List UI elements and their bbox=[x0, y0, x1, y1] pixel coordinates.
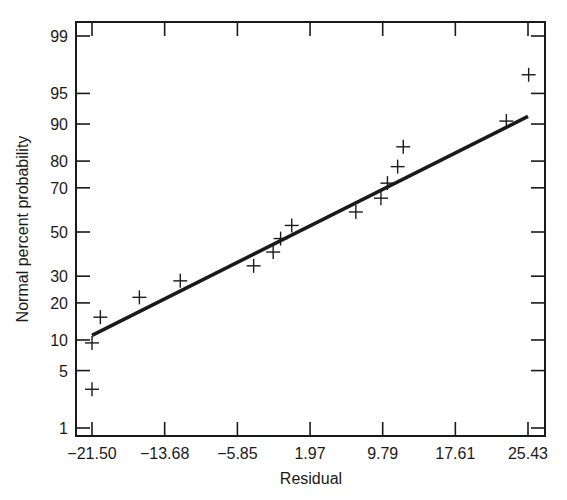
y-tick-label: 80 bbox=[50, 153, 68, 170]
plus-marker-icon bbox=[85, 336, 99, 350]
y-axis-tick-labels: 15102030507080909599 bbox=[50, 28, 68, 437]
x-tick-label: −5.85 bbox=[217, 445, 258, 462]
plus-marker-icon bbox=[173, 274, 187, 288]
y-tick-label: 10 bbox=[50, 332, 68, 349]
plus-marker-icon bbox=[93, 310, 107, 324]
plus-marker-icon bbox=[396, 140, 410, 154]
x-tick-label: 25.43 bbox=[508, 445, 548, 462]
y-tick-label: 30 bbox=[50, 268, 68, 285]
x-tick-label: 1.97 bbox=[294, 445, 325, 462]
fitted-line bbox=[92, 116, 528, 335]
plot-frame bbox=[76, 22, 545, 436]
x-axis-ticks bbox=[92, 22, 528, 436]
y-tick-label: 1 bbox=[59, 420, 68, 437]
y-axis-title: Normal percent probability bbox=[14, 136, 31, 323]
y-tick-label: 20 bbox=[50, 295, 68, 312]
x-tick-label: −13.68 bbox=[140, 445, 189, 462]
plus-marker-icon bbox=[391, 160, 405, 174]
y-tick-label: 70 bbox=[50, 180, 68, 197]
normal-probability-plot: 15102030507080909599 −21.50−13.68−5.851.… bbox=[0, 0, 567, 500]
y-tick-label: 99 bbox=[50, 28, 68, 45]
x-tick-label: 17.61 bbox=[435, 445, 475, 462]
y-tick-label: 90 bbox=[50, 116, 68, 133]
x-axis-tick-labels: −21.50−13.68−5.851.979.7917.6125.43 bbox=[67, 445, 548, 462]
plus-marker-icon bbox=[285, 218, 299, 232]
plus-marker-icon bbox=[522, 68, 536, 82]
x-tick-label: −21.50 bbox=[67, 445, 116, 462]
plus-marker-icon bbox=[247, 259, 261, 273]
y-tick-label: 95 bbox=[50, 85, 68, 102]
x-axis-title: Residual bbox=[280, 470, 342, 487]
fitted-line-segment bbox=[92, 116, 528, 335]
y-tick-label: 5 bbox=[59, 363, 68, 380]
data-points bbox=[85, 68, 536, 396]
x-tick-label: 9.79 bbox=[367, 445, 398, 462]
y-tick-label: 50 bbox=[50, 224, 68, 241]
plus-marker-icon bbox=[85, 382, 99, 396]
plus-marker-icon bbox=[132, 290, 146, 304]
y-axis-ticks bbox=[76, 36, 545, 428]
